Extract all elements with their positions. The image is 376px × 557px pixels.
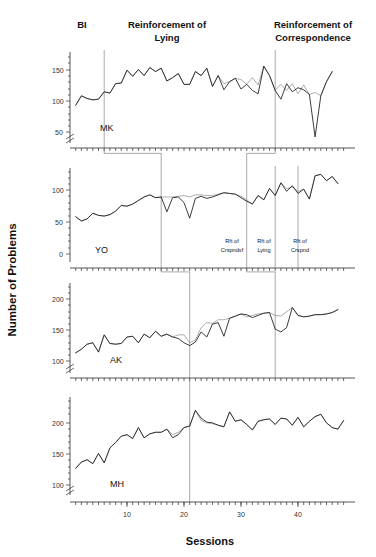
phase-caption-lying-line1: Rft of bbox=[257, 238, 271, 244]
phase-caption-crspndvf-line1: Rft of bbox=[225, 238, 239, 244]
y-tick-yo-50: 50 bbox=[55, 219, 63, 226]
phase-header-lying-line1: Reinforcement of bbox=[128, 19, 207, 30]
series-yo-actual bbox=[76, 174, 338, 221]
x-tick-10: 10 bbox=[123, 511, 131, 518]
panel-ak: 200 150 100 AK bbox=[52, 281, 355, 381]
series-mh-actual bbox=[76, 410, 344, 468]
panel-mk: 150 100 50 MK bbox=[52, 50, 355, 151]
y-tick-yo-0: 0 bbox=[59, 251, 63, 258]
y-tick-mk-50: 50 bbox=[55, 129, 63, 136]
x-axis-title: Sessions bbox=[186, 535, 234, 547]
y-tick-mh-200: 200 bbox=[52, 420, 64, 427]
y-tick-mk-100: 100 bbox=[52, 98, 64, 105]
phase-caption-crspnd-line1: Rft of bbox=[293, 238, 307, 244]
figure-container: BI Reinforcement of Lying Reinforcement … bbox=[0, 0, 376, 557]
y-tick-mh-100: 100 bbox=[52, 482, 64, 489]
x-tick-40: 40 bbox=[294, 511, 302, 518]
y-axis-title: Number of Problems bbox=[6, 223, 18, 336]
y-tick-yo-100: 100 bbox=[52, 187, 64, 194]
panel-label-yo: YO bbox=[95, 245, 108, 255]
series-ak-reported bbox=[76, 307, 338, 352]
panel-label-ak: AK bbox=[110, 355, 122, 365]
phase-header-correspondence-line1: Reinforcement of bbox=[274, 19, 353, 30]
phase-header-lying-line2: Lying bbox=[155, 32, 180, 43]
phase-caption-lying-line2: Lying bbox=[257, 247, 270, 253]
series-ak-actual bbox=[76, 307, 338, 352]
phase-header-bi: BI bbox=[77, 19, 87, 30]
panel-label-mh: MH bbox=[110, 479, 124, 489]
y-tick-mh-150: 150 bbox=[52, 451, 64, 458]
phase-caption-crspnd-line2: Crspnd bbox=[291, 247, 309, 253]
y-tick-ak-150: 150 bbox=[52, 327, 64, 334]
phase-caption-crspndvf-line2: Crspndvf bbox=[221, 247, 244, 253]
series-mk-reported bbox=[76, 66, 333, 137]
series-mh-reported bbox=[76, 410, 344, 468]
panel-label-mk: MK bbox=[100, 123, 114, 133]
y-tick-mk-150: 150 bbox=[52, 67, 64, 74]
multiple-baseline-chart: BI Reinforcement of Lying Reinforcement … bbox=[0, 0, 376, 557]
x-tick-20: 20 bbox=[180, 511, 188, 518]
panel-mh: 200 150 100 MH 10203040 bbox=[52, 395, 355, 518]
phase-header-correspondence-line2: Correspondence bbox=[275, 32, 351, 43]
x-tick-30: 30 bbox=[237, 511, 245, 518]
y-tick-ak-100: 100 bbox=[52, 358, 64, 365]
panel-yo: 100 50 0 YO Rft of Crspndvf Rft of Lying… bbox=[52, 166, 355, 271]
y-tick-ak-200: 200 bbox=[52, 296, 64, 303]
series-yo-reported bbox=[76, 174, 338, 221]
